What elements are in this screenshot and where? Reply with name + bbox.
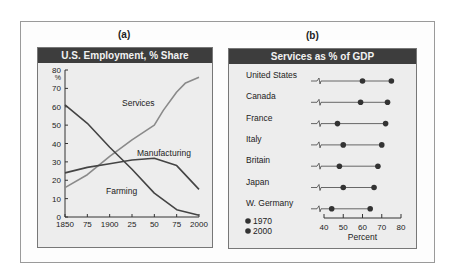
axis-break-icon [317,121,321,127]
dot-2000 [379,142,385,148]
x-tick-label: 70 [377,223,386,232]
country-label: Britain [246,155,270,165]
x-tick-label: 60 [358,223,367,232]
dot-1970 [335,121,341,127]
dot-1970 [329,206,335,212]
services-line [65,77,199,187]
dot-1970 [340,185,346,191]
y-tick-label: 20 [52,176,61,185]
dot-1970 [340,142,346,148]
panel-a-label: (a) [118,29,130,40]
axis-break-icon [317,99,321,105]
legend-label-2000: 2000 [253,226,272,236]
employment-line-chart: 01020304050607080%18507519002550752000Se… [38,48,212,247]
country-label: United States [246,70,297,80]
y-tick-label: 30 [52,158,61,167]
dot-2000 [367,206,373,212]
dot-2000 [389,78,395,84]
axis-break-icon [317,78,321,84]
country-label: France [246,113,273,123]
y-tick-label: 60 [52,103,61,112]
axis-break-icon [317,142,321,148]
country-label: Canada [246,91,276,101]
x-tick-label: 2000 [190,220,208,229]
x-tick-label: 50 [150,220,159,229]
manufacturing-annotation: Manufacturing [137,148,191,158]
dot-2000 [385,100,391,106]
x-tick-label: 1900 [101,220,119,229]
legend-label-1970: 1970 [253,216,272,226]
panel-b-label: (b) [306,30,319,41]
x-tick-label: 75 [172,220,181,229]
axis-break-icon [317,163,321,169]
dot-1970 [337,163,343,169]
dot-1970 [358,100,364,106]
legend-dot-1970 [245,218,251,224]
dot-2000 [383,121,389,127]
x-tick-label: 50 [339,223,348,232]
country-label: Japan [246,177,269,187]
y-unit-label: % [55,74,61,81]
manufacturing-line [65,158,199,189]
axis-break-icon [317,206,321,212]
services-gdp-panel: Services as % of GDP United StatesCanada… [228,48,417,249]
y-tick-label: 70 [52,84,61,93]
farming-annotation: Farming [106,186,137,196]
services-dumbbell-chart: United StatesCanadaFranceItalyBritainJap… [229,49,416,248]
y-tick-label: 10 [52,195,61,204]
legend-dot-2000 [245,228,251,234]
x-tick-label: 40 [320,223,329,232]
employment-chart-panel: U.S. Employment, % Share 010203040506070… [37,47,213,248]
country-label: W. Germany [246,198,294,208]
x-tick-label: 75 [83,220,92,229]
y-tick-label: 50 [52,121,61,130]
dot-2000 [375,163,381,169]
services-annotation: Services [122,98,155,108]
x-tick-label: 1850 [56,220,74,229]
x-tick-label: 80 [397,223,406,232]
dot-1970 [360,78,366,84]
x-tick-label: 25 [128,220,137,229]
dot-2000 [371,185,377,191]
country-label: Italy [246,134,262,144]
y-tick-label: 40 [52,140,61,149]
x-axis-title: Percent [348,232,378,242]
axis-break-icon [317,185,321,191]
